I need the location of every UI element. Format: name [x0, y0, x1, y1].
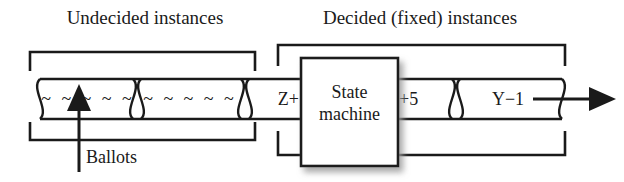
diagram-figure: Undecided instances Decided (fixed) inst… [0, 0, 624, 182]
wave-b [246, 79, 252, 119]
seg-undecided-2-text: ~ ~ ~ ~ ~ [143, 89, 237, 109]
state-machine-box: State machine [301, 58, 398, 166]
seg-decided-y-text: Y−1 [492, 89, 524, 109]
wave-a [449, 79, 455, 119]
segment-divider-3 [449, 79, 463, 119]
seg-undecided-2: ~ ~ ~ ~ ~ [143, 89, 237, 109]
diagram-canvas: ~ ~ ~ ~ ~ ~ ~ ~ ~ ~ Z+ +5 Y−1 State [0, 0, 624, 182]
segment-divider-2 [238, 79, 252, 119]
seg-decided-y: Y−1 [492, 89, 524, 109]
seg-undecided-1-text: ~ ~ ~ ~ ~ [41, 89, 135, 109]
seg-decided-plus5-text: +5 [399, 89, 418, 109]
seg-decided-z-text: Z+ [278, 89, 299, 109]
state-machine-line1: State [332, 82, 368, 102]
bracket-undecided-top [30, 52, 255, 71]
bracket-undecided-bottom [30, 122, 255, 140]
wave-b [457, 79, 463, 119]
seg-decided-plus5: +5 [399, 89, 418, 109]
seg-decided-z: Z+ [278, 89, 299, 109]
wave-a [238, 79, 244, 119]
seg-undecided-1: ~ ~ ~ ~ ~ [41, 89, 135, 109]
state-machine-line2: machine [319, 104, 380, 124]
